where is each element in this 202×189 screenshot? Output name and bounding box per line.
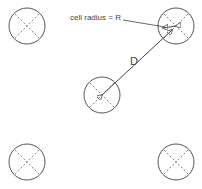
cell-bottom-right — [158, 144, 194, 180]
diagram-svg: cell radius = R D — [0, 0, 202, 189]
distance-label: D — [130, 55, 138, 67]
cell-distance-diagram: cell radius = R D — [0, 0, 202, 189]
cell-bottom-left — [9, 144, 45, 180]
radius-label: cell radius = R — [70, 13, 121, 22]
cell-top-left — [9, 8, 45, 44]
